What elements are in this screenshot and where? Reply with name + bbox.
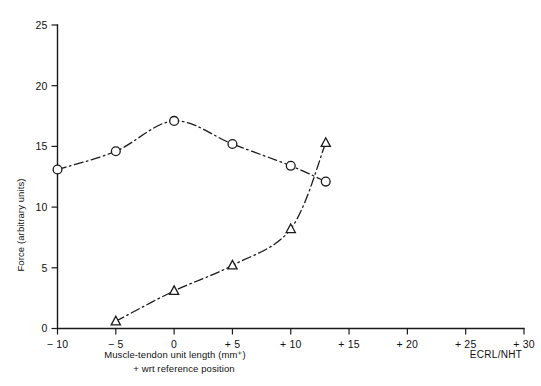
y-axis-title: Force (arbitrary units) — [15, 178, 26, 271]
corner-annotation: ECRL/NHT — [470, 349, 522, 360]
x-tick-label: − 10 — [47, 338, 69, 350]
x-tick-label: 0 — [171, 338, 177, 350]
data-point-circle — [228, 140, 237, 149]
data-point-circle — [286, 161, 295, 170]
data-point-triangle — [286, 224, 295, 233]
x-tick-label: − 5 — [108, 338, 124, 350]
data-point-triangle — [228, 260, 237, 269]
data-point-circle — [111, 147, 120, 156]
y-tick-label: 5 — [41, 262, 47, 274]
y-tick-label: 10 — [35, 201, 47, 213]
x-tick-label: + 5 — [225, 338, 241, 350]
y-tick-label: 0 — [41, 322, 47, 334]
series-circle — [53, 117, 330, 187]
x-tick-label: + 30 — [513, 338, 535, 350]
x-tick-label: + 15 — [338, 338, 360, 350]
data-point-triangle — [170, 286, 179, 295]
data-series — [53, 117, 330, 325]
y-tick-label: 20 — [35, 80, 47, 92]
x-tick-label: + 10 — [280, 338, 302, 350]
x-axis-title: Muscle-tendon unit length (mm⁺) — [104, 349, 246, 360]
axis-lines — [58, 25, 525, 329]
data-point-circle — [321, 177, 330, 186]
data-point-triangle — [321, 138, 330, 147]
series-line-circle — [58, 121, 326, 182]
x-tick-label: + 25 — [455, 338, 477, 350]
series-triangle — [111, 138, 330, 325]
data-point-triangle — [111, 316, 120, 325]
x-tick-label: + 20 — [397, 338, 419, 350]
data-point-circle — [53, 165, 62, 174]
x-axis-title-note: + wrt reference position — [133, 363, 234, 374]
tick-labels: − 10− 50+ 5+ 10+ 15+ 20+ 25+ 30051015202… — [35, 19, 534, 350]
force-length-chart: − 10− 50+ 5+ 10+ 15+ 20+ 25+ 30051015202… — [0, 0, 541, 386]
tick-marks — [52, 25, 525, 335]
figure-container: − 10− 50+ 5+ 10+ 15+ 20+ 25+ 30051015202… — [0, 0, 541, 386]
y-tick-label: 15 — [35, 140, 47, 152]
data-point-circle — [170, 117, 179, 126]
y-tick-label: 25 — [35, 19, 47, 31]
axes — [58, 25, 525, 329]
